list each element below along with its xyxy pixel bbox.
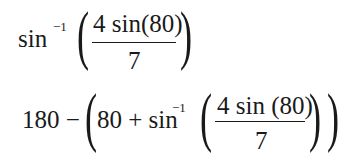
eq2-inner-open-paren: ( (200, 84, 212, 150)
eq1-open-paren: ( (77, 2, 89, 68)
eq1-fraction-bar (92, 42, 176, 43)
eq1-close-paren: ) (180, 2, 192, 68)
eq2-fraction-bar (215, 121, 305, 122)
eq1-exponent: −1 (53, 20, 67, 33)
eq2-term: 80 + sin (97, 107, 178, 132)
eq1-function: sin (18, 26, 47, 51)
eq2-outer-close-paren: ) (327, 84, 339, 150)
eq2-denominator: 7 (255, 128, 268, 153)
eq2-exponent: −1 (172, 101, 186, 114)
eq2-prefix: 180 − (22, 107, 80, 132)
eq1-numerator: 4 sin(80) (93, 11, 183, 36)
eq2-numerator: 4 sin (80) (217, 93, 313, 118)
eq2-inner-close-paren: ) (309, 84, 321, 150)
eq2-outer-open-paren: ( (85, 84, 97, 150)
eq1-denominator: 7 (128, 48, 141, 73)
